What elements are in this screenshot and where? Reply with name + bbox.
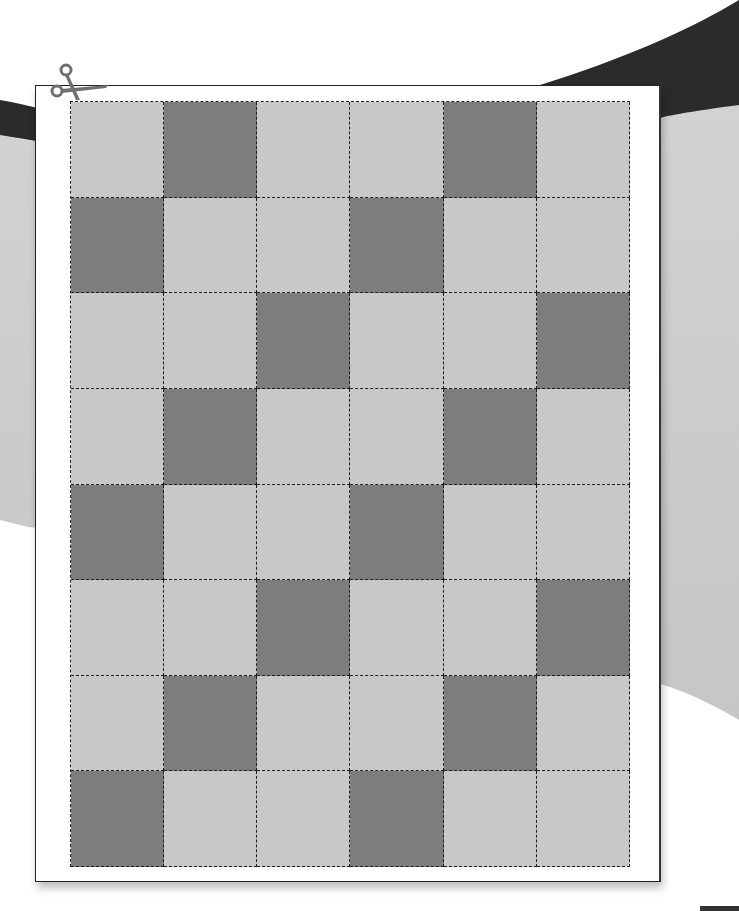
grid-cell-dark bbox=[444, 102, 537, 198]
backdrop-corner-bar bbox=[700, 906, 739, 911]
scissors-icon bbox=[48, 62, 108, 104]
grid-cell-dark bbox=[350, 198, 443, 294]
grid-cell-light bbox=[164, 580, 257, 676]
grid-cell-light bbox=[71, 676, 164, 772]
grid-cell-light bbox=[537, 389, 630, 485]
grid-cell-light bbox=[257, 389, 350, 485]
grid-cell-light bbox=[257, 102, 350, 198]
grid-cell-light bbox=[537, 102, 630, 198]
grid-cell-dark bbox=[537, 580, 630, 676]
grid-cell-dark bbox=[71, 771, 164, 867]
grid-cell-light bbox=[257, 676, 350, 772]
grid-cell-light bbox=[350, 580, 443, 676]
grid-cell-light bbox=[350, 293, 443, 389]
grid-cell-light bbox=[257, 485, 350, 581]
grid-cell-light bbox=[444, 293, 537, 389]
grid-cell-dark bbox=[444, 389, 537, 485]
grid-cell-light bbox=[350, 676, 443, 772]
grid-cell-light bbox=[350, 102, 443, 198]
grid-cell-light bbox=[537, 676, 630, 772]
grid-cell-light bbox=[444, 771, 537, 867]
grid-cell-dark bbox=[350, 485, 443, 581]
grid-cell-dark bbox=[71, 198, 164, 294]
grid-cell-dark bbox=[257, 293, 350, 389]
grid-cell-dark bbox=[164, 102, 257, 198]
grid-cell-dark bbox=[257, 580, 350, 676]
grid-cell-light bbox=[350, 389, 443, 485]
grid-cell-light bbox=[71, 389, 164, 485]
grid-cell-light bbox=[71, 580, 164, 676]
grid-cell-light bbox=[257, 198, 350, 294]
grid-cell-light bbox=[164, 771, 257, 867]
grid-cell-light bbox=[537, 198, 630, 294]
grid-cell-light bbox=[444, 580, 537, 676]
grid-cell-dark bbox=[71, 485, 164, 581]
grid-cell-light bbox=[257, 771, 350, 867]
grid-cell-light bbox=[444, 485, 537, 581]
grid-cell-light bbox=[537, 771, 630, 867]
grid-cell-light bbox=[444, 198, 537, 294]
grid-cell-light bbox=[71, 293, 164, 389]
grid-cell-light bbox=[71, 102, 164, 198]
grid-cell-dark bbox=[350, 771, 443, 867]
grid-cell-dark bbox=[444, 676, 537, 772]
cutout-grid bbox=[70, 101, 630, 867]
grid-cell-light bbox=[164, 198, 257, 294]
grid-cell-dark bbox=[164, 389, 257, 485]
grid-cell-light bbox=[164, 485, 257, 581]
grid-cell-dark bbox=[164, 676, 257, 772]
grid-cell-light bbox=[164, 293, 257, 389]
grid-cell-dark bbox=[537, 293, 630, 389]
grid-cell-light bbox=[537, 485, 630, 581]
